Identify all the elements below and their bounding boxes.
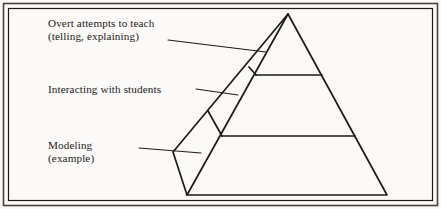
label-overt-line1: Overt attempts to teach — [48, 17, 154, 29]
side-divider-lower — [208, 111, 222, 136]
label-overt-line2: (telling, explaining) — [48, 30, 154, 43]
label-modeling-line2: (example) — [48, 152, 94, 165]
pyramid-figure: Overt attempts to teach (telling, explai… — [0, 0, 441, 209]
pyramid-front-face — [187, 14, 387, 195]
leader-line-middle — [196, 89, 238, 95]
label-modeling-line1: Modeling — [48, 139, 92, 151]
label-interact-line1: Interacting with students — [48, 83, 161, 95]
side-divider-upper — [249, 67, 256, 75]
label-modeling: Modeling (example) — [48, 139, 94, 164]
leader-line-bottom — [139, 148, 201, 153]
leader-line-top — [168, 40, 266, 52]
label-interacting-with-students: Interacting with students — [48, 83, 161, 96]
pyramid-body — [173, 14, 387, 195]
pyramid-left-face — [173, 14, 288, 195]
label-overt-attempts: Overt attempts to teach (telling, explai… — [48, 17, 154, 42]
